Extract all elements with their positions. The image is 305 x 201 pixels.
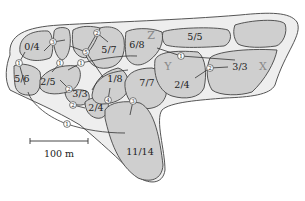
node-marker: 2 [66,86,73,93]
node-marker: 1 [64,121,71,128]
node-marker: 3 [130,98,137,105]
territory-label: 6/8 [129,39,144,50]
svg-text:5: 5 [84,49,88,55]
node-marker: 1 [57,60,64,67]
node-marker: 1 [16,60,23,67]
node-marker: 5 [83,49,90,56]
territory-label: 0/4 [24,41,39,52]
svg-text:2: 2 [95,30,99,36]
territory-label: 3/3 [232,61,247,72]
territory-label: 5/7 [101,44,116,55]
zone-x-label: X [259,60,267,73]
node-marker: 3 [50,39,57,46]
node-marker: 2 [207,65,214,72]
territory-label: 1/8 [107,73,122,84]
territory-label: 7/7 [139,77,154,88]
svg-text:1: 1 [17,60,21,66]
territory-label: 5/6 [14,73,29,84]
scale-bar: 100 m [30,138,88,159]
svg-text:2: 2 [67,86,71,92]
territory-label: 2/5 [40,76,55,87]
svg-text:2: 2 [208,65,212,71]
node-marker: 2 [70,102,77,109]
territory-label: 3/3 [72,88,87,99]
node-marker: 1 [78,60,85,67]
svg-text:4: 4 [106,97,110,103]
svg-text:1: 1 [58,60,62,66]
zone-z-label: Z [147,29,155,42]
territory-map: 0/4 5/6 2/5 3/3 2/4 5/7 1/8 6/8 7/7 11/1… [0,0,305,201]
zone-y-label: Y [163,60,172,73]
svg-text:3: 3 [131,98,135,104]
territory-label: 2/4 [174,79,189,90]
svg-text:3: 3 [51,39,55,45]
svg-text:1: 1 [179,53,183,59]
territory-label: 2/4 [88,102,103,113]
node-marker: 4 [105,97,112,104]
scale-bar-label: 100 m [44,148,74,159]
node-marker: 1 [178,53,185,60]
territory-label: 11/14 [126,146,153,157]
territory-label: 5/5 [187,31,202,42]
svg-text:1: 1 [65,121,69,127]
svg-text:2: 2 [71,102,75,108]
node-marker: 2 [94,30,101,37]
svg-text:1: 1 [79,60,83,66]
